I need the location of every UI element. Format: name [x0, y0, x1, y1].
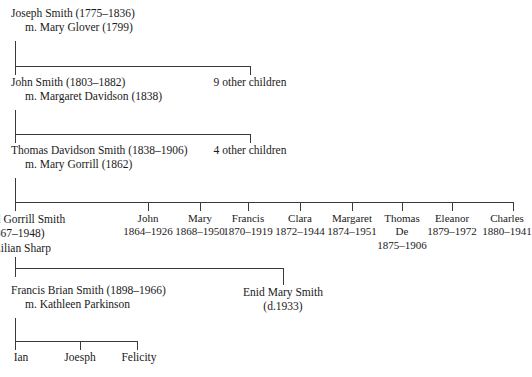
connector-sibling-drop-edward: [15, 202, 16, 211]
sibling-eleanor-dates: 1879–1972: [427, 225, 477, 238]
other-children-9: 9 other children: [214, 76, 287, 88]
gen5-marriage: m. Kathleen Parkinson: [11, 297, 166, 311]
sibling-margaret-dates: 1874–1951: [327, 225, 377, 238]
sibling-charles-dates: 1880–1941: [482, 225, 532, 238]
sibling-john-name: John: [123, 212, 173, 225]
gen4-marriage: m. Lilian Sharp: [0, 241, 65, 255]
connector-gen5-stem: [15, 318, 16, 341]
sibling-john-dates: 1864–1926: [123, 225, 173, 238]
gen3-marriage: m. Mary Gorrill (1862): [11, 157, 188, 171]
sibling-charles: Charles 1880–1941: [482, 212, 532, 239]
node-generation-2: John Smith (1803–1882) m. Margaret David…: [11, 75, 162, 104]
connector-sibling-drop-clara: [300, 202, 301, 211]
connector-gen4-bus: [15, 268, 284, 269]
sibling-mary-dates: 1868–1950: [175, 225, 225, 238]
connector-sibling-drop-francis: [248, 202, 249, 211]
connector-other-gen2-drop: [250, 66, 251, 75]
child-joesph: Joesph: [64, 351, 95, 363]
node-generation-3: Thomas Davidson Smith (1838–1906) m. Mar…: [11, 143, 188, 172]
child-ian: Ian: [14, 351, 29, 363]
connector-children-bus: [15, 341, 138, 342]
connector-siblings-bus: [15, 202, 514, 203]
connector-sibling-drop-eleanor: [452, 202, 453, 211]
connector-gen4-stem: [15, 257, 16, 268]
connector-gen2-bus: [15, 134, 251, 135]
enid-dates: (d.1933): [243, 299, 323, 313]
connector-sibling-drop-john: [148, 202, 149, 211]
sibling-mary-name: Mary: [175, 212, 225, 225]
sibling-thomas-de-name: Thomas: [377, 212, 427, 225]
sibling-john: John 1864–1926: [123, 212, 173, 239]
connector-sibling-drop-margaret: [352, 202, 353, 211]
sibling-thomas-de: Thomas De 1875–1906: [377, 212, 427, 252]
gen4-name: Edward Gorrill Smith: [0, 212, 65, 226]
family-tree-diagram: Joseph Smith (1775–1836) m. Mary Glover …: [0, 0, 532, 377]
other-children-4: 4 other children: [214, 144, 287, 156]
gen4-dates: (1867–1948): [0, 226, 65, 240]
node-generation-1: Joseph Smith (1775–1836) m. Mary Glover …: [11, 6, 135, 35]
sibling-margaret: Margaret 1874–1951: [327, 212, 377, 239]
connector-gen2-stem: [15, 110, 16, 134]
gen2-name: John Smith (1803–1882): [11, 75, 162, 89]
connector-gen5-drop: [15, 268, 16, 277]
sibling-mary: Mary 1868–1950: [175, 212, 225, 239]
sibling-francis-name: Francis: [223, 212, 273, 225]
node-enid-mary-smith: Enid Mary Smith (d.1933): [243, 285, 323, 314]
connector-child-drop-ian: [15, 341, 16, 350]
sibling-eleanor-name: Eleanor: [427, 212, 477, 225]
node-generation-5: Francis Brian Smith (1898–1966) m. Kathl…: [11, 283, 166, 312]
connector-sibling-drop-thomas-de: [402, 202, 403, 211]
gen3-name: Thomas Davidson Smith (1838–1906): [11, 143, 188, 157]
sibling-thomas-de-name-2: De: [377, 225, 427, 238]
connector-gen2-drop: [15, 66, 16, 75]
gen5-name: Francis Brian Smith (1898–1966): [11, 283, 166, 297]
sibling-clara-name: Clara: [275, 212, 325, 225]
sibling-charles-name: Charles: [482, 212, 532, 225]
connector-child-drop-joesph: [80, 341, 81, 350]
connector-gen3-drop: [15, 134, 16, 143]
child-felicity: Felicity: [121, 351, 156, 363]
connector-gen1-stem: [15, 41, 16, 66]
sibling-clara-dates: 1872–1944: [275, 225, 325, 238]
connector-sibling-drop-mary: [200, 202, 201, 211]
enid-name: Enid Mary Smith: [243, 285, 323, 299]
connector-gen3-stem: [15, 178, 16, 202]
gen1-name: Joseph Smith (1775–1836): [11, 6, 135, 20]
gen1-marriage: m. Mary Glover (1799): [11, 20, 135, 34]
connector-gen1-bus: [15, 66, 251, 67]
gen2-marriage: m. Margaret Davidson (1838): [11, 89, 162, 103]
sibling-clara: Clara 1872–1944: [275, 212, 325, 239]
connector-enid-drop: [283, 268, 284, 285]
sibling-eleanor: Eleanor 1879–1972: [427, 212, 477, 239]
sibling-thomas-de-dates: 1875–1906: [377, 239, 427, 252]
connector-child-drop-felicity: [137, 341, 138, 350]
sibling-francis-dates: 1870–1919: [223, 225, 273, 238]
connector-sibling-drop-charles: [513, 202, 514, 211]
sibling-francis: Francis 1870–1919: [223, 212, 273, 239]
connector-other-gen3-drop: [250, 134, 251, 143]
node-generation-4: Edward Gorrill Smith (1867–1948) m. Lili…: [0, 212, 65, 255]
sibling-margaret-name: Margaret: [327, 212, 377, 225]
